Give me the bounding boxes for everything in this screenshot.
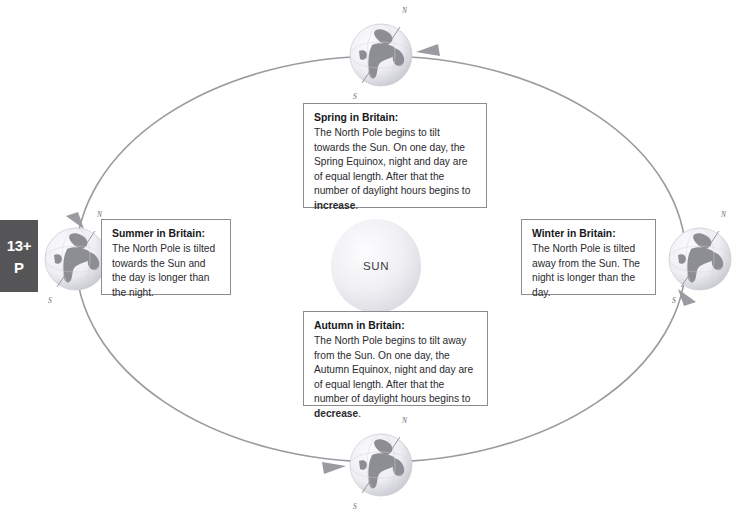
callout-winter-text: The North Pole is tilted away from the S… — [532, 243, 640, 298]
globe-right-north-label: N — [721, 210, 726, 219]
level-badge-code: P — [14, 260, 24, 275]
callout-summer-body: The North Pole is tilted towards the Sun… — [112, 242, 221, 300]
callout-spring-text-tail: . — [355, 200, 358, 211]
globe-top: N S — [348, 22, 414, 88]
orbit-arrow-bottom — [322, 462, 346, 474]
globe-top-south-label: S — [353, 92, 357, 101]
callout-winter-title: Winter in Britain: — [532, 227, 646, 242]
callout-spring-body: The North Pole begins to tilt towards th… — [314, 126, 477, 214]
callout-autumn-body: The North Pole begins to tilt away from … — [314, 334, 478, 422]
callout-spring-title: Spring in Britain: — [314, 111, 477, 126]
earth-globe-icon — [348, 432, 414, 498]
callout-autumn: Autumn in Britain: The North Pole begins… — [303, 311, 488, 406]
sun-graphic: SUN — [330, 218, 422, 314]
globe-bottom-south-label: S — [353, 502, 357, 511]
callout-spring-emphasis: increase — [314, 200, 355, 211]
callout-autumn-text-tail: . — [358, 408, 361, 419]
globe-right: N S — [667, 226, 733, 292]
callout-winter-body: The North Pole is tilted away from the S… — [532, 242, 646, 300]
callout-summer-text: The North Pole is tilted towards the Sun… — [112, 243, 215, 298]
globe-bottom: N S — [348, 432, 414, 498]
earth-globe-icon — [667, 226, 733, 292]
callout-autumn-emphasis: decrease — [314, 408, 358, 419]
callout-summer-title: Summer in Britain: — [112, 227, 221, 242]
seasons-diagram-page: 13+ P SUN N S — [0, 0, 743, 526]
level-badge-age: 13+ — [7, 238, 32, 253]
earth-globe-icon — [43, 226, 109, 292]
callout-spring-text: The North Pole begins to tilt towards th… — [314, 127, 470, 196]
globe-top-north-label: N — [402, 6, 407, 15]
globe-right-south-label: S — [672, 296, 676, 305]
level-badge: 13+ P — [0, 220, 38, 292]
callout-autumn-title: Autumn in Britain: — [314, 319, 478, 334]
callout-winter: Winter in Britain: The North Pole is til… — [521, 219, 656, 295]
orbit-arrow-top — [416, 44, 440, 56]
earth-globe-icon — [348, 22, 414, 88]
callout-summer: Summer in Britain: The North Pole is til… — [101, 219, 231, 295]
sun-label: SUN — [330, 218, 422, 314]
callout-spring: Spring in Britain: The North Pole begins… — [303, 103, 487, 208]
globe-left-north-label: N — [97, 210, 102, 219]
callout-autumn-text: The North Pole begins to tilt away from … — [314, 335, 473, 404]
globe-left-south-label: S — [48, 296, 52, 305]
globe-left: N S — [43, 226, 109, 292]
